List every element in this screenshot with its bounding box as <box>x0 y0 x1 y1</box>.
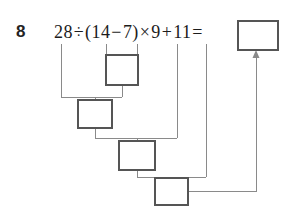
answer-box[interactable] <box>238 21 278 50</box>
step-box-3[interactable] <box>119 141 155 170</box>
step-box-2[interactable] <box>78 100 112 128</box>
step-box-4[interactable] <box>155 178 188 205</box>
arrow-up-icon <box>253 50 260 58</box>
connector-step2-to-step3 <box>95 128 177 138</box>
connector-step3-to-step4 <box>137 170 206 177</box>
step-box-1[interactable] <box>106 55 138 85</box>
work-flow-diagram <box>0 0 285 214</box>
worksheet-canvas: 8 28÷(14−7)×9+11= <box>0 0 285 214</box>
connector-step4-to-answer <box>188 56 256 191</box>
